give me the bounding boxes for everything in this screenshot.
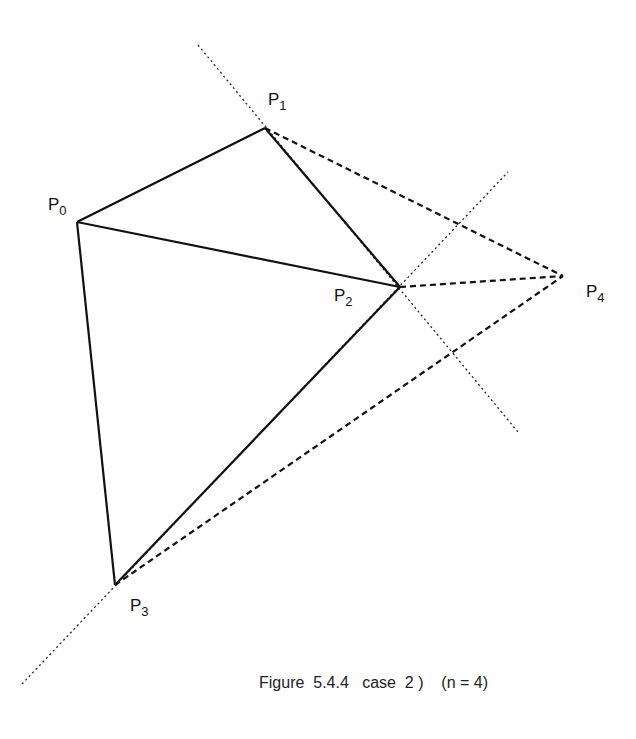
point-letter: P [586, 282, 597, 301]
point-label-p0: P0 [48, 195, 67, 218]
edge-p0-p1 [77, 128, 265, 222]
point-label-p2: P2 [334, 286, 353, 309]
edge-p2-p3 [115, 287, 400, 585]
dashed-edge-p3-p4 [115, 276, 563, 585]
edge-p0-p2 [77, 222, 400, 287]
point-label-p3: P3 [130, 596, 149, 619]
point-letter: P [268, 90, 279, 109]
point-label-p4: P4 [586, 282, 605, 305]
edge-p0-p3 [77, 222, 115, 585]
figure-caption: Figure 5.4.4 case 2 ) (n = 4) [259, 674, 488, 692]
dashed-edge-p2-p4 [400, 276, 563, 287]
point-subscript: 0 [59, 203, 66, 218]
point-letter: P [48, 195, 59, 214]
point-subscript: 4 [597, 290, 604, 305]
point-subscript: 2 [345, 294, 352, 309]
point-subscript: 3 [141, 604, 148, 619]
point-subscript: 1 [279, 98, 286, 113]
point-letter: P [130, 596, 141, 615]
geometry-figure [0, 0, 636, 739]
point-letter: P [334, 286, 345, 305]
point-label-p1: P1 [268, 90, 287, 113]
dashed-edge-p1-p4 [265, 128, 563, 276]
